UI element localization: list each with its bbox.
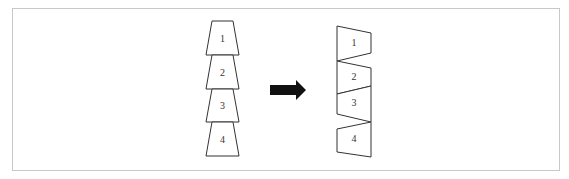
right-label-1: 1 [352,37,357,48]
diagram-canvas: 1 2 3 4 1 2 3 [0,0,569,179]
left-label-3: 3 [220,100,225,111]
right-label-3: 3 [352,97,357,108]
right-label-4: 4 [352,133,357,144]
left-label-2: 2 [220,67,225,78]
left-label-1: 1 [220,33,225,44]
left-label-4: 4 [220,134,225,145]
right-label-2: 2 [352,71,357,82]
left-trapezoid-3: 3 [206,89,239,122]
left-trapezoid-2: 2 [206,55,239,89]
right-shape-1: 1 [337,26,371,61]
left-trapezoid-1: 1 [206,21,239,55]
left-trapezoid-4: 4 [206,122,239,156]
right-shape-4: 4 [337,122,371,157]
right-stack: 1 2 3 4 [337,26,371,157]
left-stack: 1 2 3 4 [206,21,239,156]
right-arrow-icon [270,80,306,100]
